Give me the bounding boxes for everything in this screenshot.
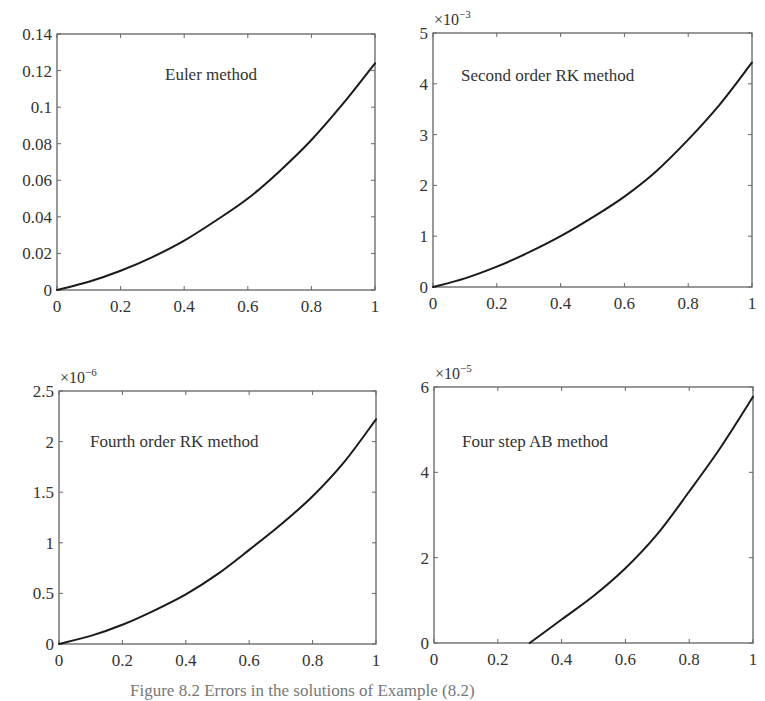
y-tick-label: 1.5 <box>33 483 54 502</box>
y-tick-label: 0.08 <box>22 135 52 154</box>
x-tick-label: 0.2 <box>487 650 508 669</box>
x-tick-label: 1 <box>372 651 381 670</box>
y-multiplier-exponent: −5 <box>460 362 472 374</box>
x-tick-label: 0.8 <box>301 297 322 316</box>
method-annotation: Second order RK method <box>461 66 635 85</box>
x-tick-label: 0.6 <box>239 651 260 670</box>
subplot-3: 00.20.40.60.8100.511.522.5×10−6Fourth or… <box>33 366 381 670</box>
x-tick-label: 1 <box>749 650 758 669</box>
method-annotation: Fourth order RK method <box>90 432 259 451</box>
subplot-2: 00.20.40.60.81012345×10−3Second order RK… <box>420 8 757 313</box>
y-tick-label: 5 <box>420 24 429 43</box>
y-tick-label: 4 <box>421 463 430 482</box>
subplot-1: 00.20.40.60.8100.020.040.060.080.10.120.… <box>22 25 379 316</box>
x-tick-label: 0.6 <box>615 650 636 669</box>
y-multiplier: ×10−3 <box>434 8 471 28</box>
y-tick-label: 0.14 <box>22 25 52 44</box>
x-tick-label: 0.6 <box>237 297 258 316</box>
y-tick-label: 0.5 <box>33 584 54 603</box>
y-tick-label: 0.04 <box>22 208 52 227</box>
y-multiplier: ×10−5 <box>435 362 472 382</box>
x-tick-label: 0.2 <box>486 294 507 313</box>
axes-frame <box>59 391 376 644</box>
x-tick-label: 0.4 <box>551 650 573 669</box>
x-tick-label: 0 <box>430 650 439 669</box>
error-curve-1 <box>57 63 375 290</box>
y-tick-label: 0 <box>420 278 429 297</box>
y-tick-label: 2 <box>421 549 430 568</box>
x-tick-label: 0.2 <box>110 297 131 316</box>
y-multiplier: ×10−6 <box>60 366 97 386</box>
y-tick-label: 4 <box>420 75 429 94</box>
y-tick-label: 1 <box>46 534 55 553</box>
error-curve-1 <box>59 419 376 644</box>
x-tick-label: 1 <box>371 297 380 316</box>
y-tick-label: 2 <box>420 176 429 195</box>
y-multiplier-exponent: −3 <box>459 8 471 20</box>
method-annotation: Four step AB method <box>462 432 608 451</box>
x-tick-label: 0.4 <box>175 651 197 670</box>
y-tick-label: 0 <box>44 281 53 300</box>
y-tick-label: 2.5 <box>33 382 54 401</box>
y-tick-label: 3 <box>420 126 429 145</box>
subplot-4: 00.20.40.60.810246×10−5Four step AB meth… <box>421 362 758 669</box>
x-tick-label: 0.8 <box>679 650 700 669</box>
x-tick-label: 0.2 <box>112 651 133 670</box>
y-tick-label: 6 <box>421 378 430 397</box>
x-tick-label: 0.8 <box>302 651 323 670</box>
x-tick-label: 0.4 <box>550 294 572 313</box>
y-multiplier-exponent: −6 <box>85 366 97 378</box>
x-tick-label: 1 <box>748 294 757 313</box>
y-tick-label: 0.02 <box>22 244 52 263</box>
y-tick-label: 0 <box>421 634 430 653</box>
x-tick-label: 0.4 <box>174 297 196 316</box>
method-annotation: Euler method <box>165 65 258 84</box>
axes-frame <box>434 387 753 643</box>
x-tick-label: 0.8 <box>678 294 699 313</box>
y-tick-label: 0.06 <box>22 171 52 190</box>
y-tick-label: 0.12 <box>22 62 52 81</box>
error-curve-1 <box>433 62 752 287</box>
x-tick-label: 0.6 <box>614 294 635 313</box>
x-tick-label: 0 <box>429 294 438 313</box>
y-tick-label: 1 <box>420 227 429 246</box>
x-tick-label: 0 <box>55 651 64 670</box>
y-tick-label: 0.1 <box>31 98 52 117</box>
y-tick-label: 2 <box>46 433 55 452</box>
y-tick-label: 0 <box>46 635 55 654</box>
x-tick-label: 0 <box>53 297 62 316</box>
figure-caption: Figure 8.2 Errors in the solutions of Ex… <box>130 681 475 701</box>
